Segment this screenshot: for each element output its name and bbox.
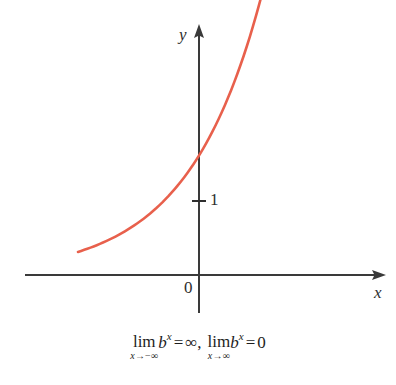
limit-expression-left: lim x→−∞ bx=∞	[130, 330, 197, 358]
limit-value-right: 0	[257, 333, 266, 352]
origin-label: 0	[184, 279, 193, 296]
limit-value-left: ∞	[185, 333, 197, 352]
lim-subscript-left: x→−∞	[130, 351, 158, 362]
limit-operator-left: lim x→−∞	[130, 333, 158, 361]
lim-subscript-target-right: ∞	[223, 350, 230, 361]
y-axis-label: y	[179, 26, 187, 43]
lim-word-left: lim	[130, 333, 158, 351]
lim-subscript-arrow-right: →	[212, 350, 222, 361]
equals-sign-left: =	[172, 333, 186, 352]
equals-sign-right: =	[244, 333, 258, 352]
lim-subscript-target-left: −∞	[145, 350, 158, 361]
limit-expression-right: lim x→∞ bx=0	[208, 330, 266, 358]
exponent-symbol-left: x	[167, 330, 172, 342]
lim-subscript-arrow-left: →	[135, 350, 145, 361]
plot-canvas	[0, 0, 396, 385]
base-symbol-left: b	[158, 333, 167, 352]
y-tick-label-one: 1	[210, 191, 219, 208]
lim-subscript-right: x→∞	[208, 351, 231, 362]
lim-word-right: lim	[208, 333, 231, 351]
exponent-symbol-right: x	[239, 330, 244, 342]
x-axis-label: x	[374, 284, 382, 301]
exponential-decay-figure: y x 0 1 lim x→−∞ bx=∞, lim x→∞ bx=0	[0, 0, 396, 385]
limit-operator-right: lim x→∞	[208, 333, 231, 361]
exponential-curve	[78, 0, 378, 252]
base-symbol-right: b	[230, 333, 239, 352]
limit-caption: lim x→−∞ bx=∞, lim x→∞ bx=0	[0, 330, 396, 358]
caption-separator: ,	[197, 333, 207, 352]
